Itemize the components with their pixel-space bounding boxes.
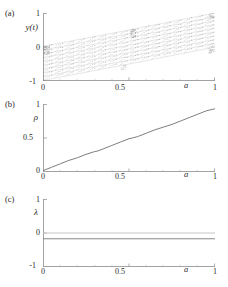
panel-c-plot-area [43,199,215,267]
panel-a-svg [43,13,215,81]
panel-a-plot-area [43,13,215,81]
panel-a-ytick-1: 1 [26,9,40,18]
panel-b-xtick-05: 0.5 [110,172,130,181]
panel-a-ytick-0: 0 [26,43,40,52]
panel-b-label: (b) [5,99,15,109]
panel-b-svg [43,104,215,172]
panel-a-label: (a) [5,8,14,18]
panel-c-label: (c) [5,194,14,204]
figure-root: (a) y(t) 1 0 -1 0 0.5 1 a [0,0,228,287]
panel-b-rho-curve [43,109,215,171]
panel-c-xtick-1: 1 [205,267,225,276]
panel-c-ytick-0: 0 [26,228,40,237]
panel-b-ytick-05: 0.5 [19,133,33,142]
panel-b-xtick-1: 1 [205,172,225,181]
panel-a-xlabel: a [184,80,188,90]
panel-c-ylabel: λ [24,207,38,217]
panel-c-xtick-0: 0 [33,267,53,276]
panel-a: (a) y(t) 1 0 -1 0 0.5 1 a [0,0,228,95]
panel-b: (b) ρ 1 0.5 0 0 0.5 1 a [0,95,228,190]
panel-b-ytick-1: 1 [26,100,40,109]
panel-a-xtick-1: 1 [205,83,225,92]
panel-a-xtick-05: 0.5 [110,83,130,92]
panel-b-xtick-0: 0 [33,172,53,181]
panel-a-ylabel: y(t) [14,22,38,32]
panel-c-xtick-05: 0.5 [110,267,130,276]
panel-c: (c) λ 1 0 -1 0 0.5 1 a [0,190,228,287]
panel-b-ylabel: ρ [22,112,38,122]
panel-a-xtick-0: 0 [33,83,53,92]
panel-b-axes [43,104,215,172]
panel-b-plot-area [43,104,215,172]
panel-c-ytick-1: 1 [26,195,40,204]
panel-a-attractor-points [43,13,215,80]
panel-c-svg [43,199,215,267]
